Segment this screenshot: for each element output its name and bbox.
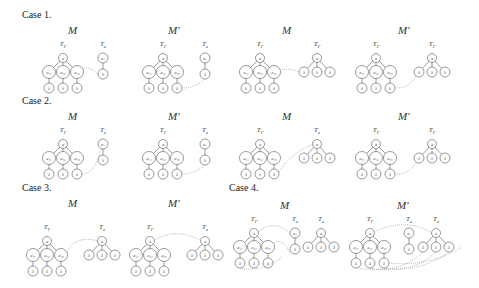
c2-m3-tg-child-3-node-label: a₁₃: [271, 156, 277, 161]
c3-m1-ta-leaf-0-label: λ: [87, 253, 90, 258]
c1-m4-tb-leaf-0-label: λ: [417, 70, 420, 75]
c3-m1-tg-leaf-0-label: λ: [31, 269, 34, 274]
c2-m4-tb-leaf-0-label: λ: [417, 156, 420, 161]
c3-m1-tg-child-3-node-label: a₁₃: [58, 253, 64, 258]
c1-m3-tg-tree-label: TΓ: [257, 40, 264, 49]
c1-m2-tg-child-2-node-label: a₁₂: [160, 70, 166, 75]
c3-m2-tg-leaf-0-label: λ: [134, 269, 137, 274]
c2-m3-tg-leaf-1-label: λ: [258, 172, 261, 177]
c1-m1-tg-child-2-node-label: a₁₂: [60, 70, 66, 75]
c3-m1-ta-leaf-2-label: λ: [113, 253, 116, 258]
c1-m3-tg-leaf-1-label: λ: [258, 86, 261, 91]
c1-m2-tg-leaf-1-label: λ: [161, 86, 164, 91]
c3-m2-tg-child-1-node-label: a₁₁: [133, 253, 139, 258]
c2-m2-tg-child-1-node-label: a₁₁: [146, 156, 152, 161]
c3-m1-tg-leaf-2-label: λ: [59, 269, 62, 274]
c1-m4-tb-tree-label: TΓ: [429, 40, 436, 49]
c1-m1-link: [83, 68, 98, 74]
c1-m3-tb-leaf-2-label: λ: [328, 70, 331, 75]
c2-m1-tg-child-2-node-label: a₁₂: [60, 156, 66, 161]
c2-m4-link: [395, 162, 416, 174]
c2-m1-ta-a1-node-label: a₁: [101, 142, 105, 147]
c4-m2-ta1-leaf-label: λ: [407, 247, 410, 252]
c2-m3-tb-leaf-2-label: λ: [328, 156, 331, 161]
c2-m1-tg-leaf-2-label: λ: [75, 172, 78, 177]
c4-m1-link-1: [258, 226, 290, 233]
c4-m2-tg-child-1-node-label: a₁₁: [353, 245, 359, 250]
c1-m2-link: [182, 79, 205, 88]
c2-m3-tg-child-1-node-label: a₁₁: [243, 156, 249, 161]
c4-m1-tg-tree-label: TΓ: [251, 215, 258, 224]
c4-m2-ta1-a1-node-label: a₁: [407, 231, 411, 236]
c2-m4-tg-child-3-node-label: a₁₃: [387, 156, 393, 161]
c1-m2-ta-tree-label: Ta: [202, 40, 209, 49]
c2-m4-tg-child-1-node-label: a₁₁: [359, 156, 365, 161]
c1-m1-ta-tree-label: Ta: [100, 40, 107, 49]
c4-m1-tg-leaf-2-label: λ: [266, 261, 269, 266]
c2-m4-tg-leaf-2-label: λ: [388, 172, 391, 177]
c4-m1-tg-child-1-node-label: a₁₁: [237, 245, 243, 250]
c4-m2-tg-leaf-0-label: λ: [354, 261, 357, 266]
c4-m1-ta1-a1-node-label: a₁: [293, 231, 297, 236]
c3-m2-tg-child-2-node-label: a₁₂: [147, 253, 153, 258]
c2-m1-tg-child-3-node-label: a₁₃: [74, 156, 80, 161]
c2-m3-tb-tree-label: Ta: [314, 126, 321, 135]
c2-m2-ta-leaf-label: λ: [203, 158, 206, 163]
c1-m4-tg-child-1-node-label: a₁₁: [359, 70, 365, 75]
c1-m1-tg-leaf-2-label: λ: [75, 86, 78, 91]
c4-m1-tg-leaf-1-label: λ: [252, 261, 255, 266]
c1-m3-tb-tree-label: TΓ: [314, 40, 321, 49]
c4-m2-tg-child-3-node-label: a₁₃: [381, 245, 387, 250]
c3-m1-tg-tree-label: TΓ: [44, 223, 51, 232]
c1-m1-tg-child-3-node-label: a₁₃: [74, 70, 80, 75]
c3-m1-tg-leaf-1-label: λ: [45, 269, 48, 274]
c1-m2-tg-leaf-2-label: λ: [175, 86, 178, 91]
c4-m2-ta2-leaf-2-label: λ: [447, 245, 450, 250]
c1-m3-tb-leaf-0-label: λ: [302, 70, 305, 75]
c1-m4-link: [395, 76, 416, 88]
c1-m4-tg-leaf-2-label: λ: [388, 86, 391, 91]
c2-m1-tg-tree-label: TΓ: [60, 126, 67, 135]
c3-m2-tg-leaf-2-label: λ: [162, 269, 165, 274]
c2-m1-ta-leaf-label: λ: [101, 158, 104, 163]
c2-m2-tg-leaf-1-label: λ: [161, 172, 164, 177]
c2-m4-tb-tree-label: TΓ: [429, 126, 436, 135]
c2-m4-tg-child-2-node-label: a₁₂: [373, 156, 379, 161]
c1-m2-tg-leaf-0-label: λ: [147, 86, 150, 91]
c2-m3-tg-child-2-node-label: a₁₂: [257, 156, 263, 161]
c2-m2-tg-leaf-2-label: λ: [175, 172, 178, 177]
c1-m1-tg-leaf-0-label: λ: [47, 86, 50, 91]
c2-m3-tg-leaf-2-label: λ: [272, 172, 275, 177]
c1-m3-tg-child-2-node-label: a₁₂: [257, 70, 263, 75]
c1-m4-tg-child-3-node-label: a₁₃: [387, 70, 393, 75]
c3-m2-ta-tree-label: Ta: [202, 223, 209, 232]
c3-m2-ta-leaf-2-label: λ: [216, 253, 219, 258]
c1-m2-ta-a1-node-label: a₁: [203, 56, 207, 61]
c2-m3-tg-leaf-0-label: λ: [244, 172, 247, 177]
c4-m1-ta2-tree-label: Ta: [318, 215, 325, 224]
c1-m2-tg-tree-label: TΓ: [160, 40, 167, 49]
c2-m1-ta-tree-label: Ta: [100, 126, 107, 135]
c1-m1-ta-a1-node-label: a₁: [101, 56, 105, 61]
c1-m1-tg-tree-label: TΓ: [60, 40, 67, 49]
c4-m2-ta2-leaf-0-label: λ: [421, 245, 424, 250]
c4-m1-ta1-tree-label: Ta: [292, 215, 299, 224]
c2-m4-tg-leaf-0-label: λ: [360, 172, 363, 177]
c1-m1-ta-leaf-label: λ: [101, 72, 104, 77]
c1-m1-tg-child-1-node-label: a₁₁: [46, 70, 52, 75]
c2-m4-tg-tree-label: TΓ: [373, 126, 380, 135]
c3-m2-link: [154, 234, 201, 241]
c2-m2-ta-a1-node-label: a₁: [203, 142, 207, 147]
c1-m2-ta-leaf-label: λ: [203, 72, 206, 77]
c1-m3-tg-leaf-2-label: λ: [272, 86, 275, 91]
c2-m4-tb-leaf-1-label: λ: [430, 156, 433, 161]
c3-m1-tg-child-2-node-label: a₁₂: [44, 253, 50, 258]
c2-m2-tg-leaf-0-label: λ: [147, 172, 150, 177]
c4-m1-link-3: [240, 257, 282, 269]
c1-m3-tg-child-3-node-label: a₁₃: [271, 70, 277, 75]
c1-m4-tg-leaf-1-label: λ: [374, 86, 377, 91]
c1-m3-link: [280, 69, 299, 72]
c4-m1-link-2: [274, 241, 290, 253]
c2-m1-tg-child-1-node-label: a₁₁: [46, 156, 52, 161]
c4-m2-ta2-leaf-1-label: λ: [434, 245, 437, 250]
